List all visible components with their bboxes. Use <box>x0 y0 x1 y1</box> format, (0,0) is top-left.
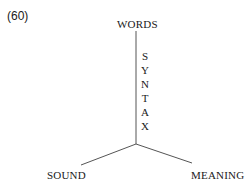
syntax-letter: S <box>140 49 150 63</box>
syntax-letter: X <box>140 119 150 133</box>
node-sound: SOUND <box>47 170 86 181</box>
syntax-letter: N <box>140 77 150 91</box>
node-meaning: MEANING <box>191 170 244 181</box>
right-branch-line <box>136 144 192 163</box>
left-branch-line <box>81 144 136 165</box>
syntax-letter: Y <box>140 63 150 77</box>
syntax-letter: T <box>140 91 150 105</box>
syntax-letter: A <box>140 105 150 119</box>
node-words: WORDS <box>117 19 158 30</box>
syntax-label: S Y N T A X <box>140 49 150 133</box>
